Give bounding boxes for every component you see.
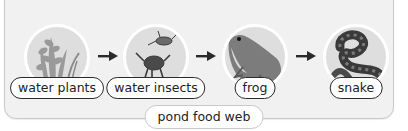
node-frog: frog (216, 24, 294, 102)
label-snake: snake (330, 77, 383, 99)
label-water-plants: water plants (10, 77, 104, 99)
arrow-frog-to-snake (296, 50, 316, 62)
label-frog: frog (235, 77, 276, 99)
node-water-plants: water plants (18, 24, 96, 102)
diagram-title: pond food web (145, 105, 264, 129)
label-water-insects: water insects (106, 77, 205, 99)
arrow-plants-to-insects (98, 50, 118, 62)
node-snake: snake (317, 24, 395, 102)
arrow-insects-to-frog (196, 50, 216, 62)
node-water-insects: water insects (117, 24, 195, 102)
